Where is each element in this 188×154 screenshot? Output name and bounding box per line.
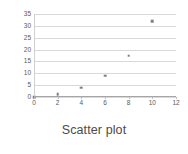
x-tick-label: 10 [149,100,156,107]
x-axis-tick-labels: 024681012 [34,97,176,111]
x-tick-label: 6 [103,100,107,107]
y-axis-tick-labels: 05101520253035 [0,14,31,97]
y-tick-label: 0 [27,94,31,101]
data-point [80,86,83,89]
x-tick-label: 2 [56,100,60,107]
gridline [34,14,176,15]
plot-region: 05101520253035 024681012 [0,0,188,118]
y-tick-label: 20 [24,46,31,53]
y-tick-label: 35 [24,11,31,18]
x-tick-label: 4 [80,100,84,107]
gridline [34,38,176,39]
y-tick-label: 10 [24,70,31,77]
gridline [34,50,176,51]
data-point [127,54,130,57]
chart-title: Scatter plot [0,124,188,138]
y-tick-label: 15 [24,58,31,65]
plot-area [34,14,176,97]
y-tick-label: 25 [24,34,31,41]
y-tick-label: 5 [27,82,31,89]
data-point [151,20,154,23]
y-tick-label: 30 [24,23,31,30]
scatter-plot-figure: 05101520253035 024681012 Scatter plot [0,0,188,154]
data-point [56,93,59,96]
data-point [104,74,107,77]
y-axis-line [34,14,35,97]
x-tick-label: 0 [32,100,36,107]
gridline [34,85,176,86]
gridline [34,61,176,62]
x-tick-label: 8 [127,100,131,107]
gridline [34,26,176,27]
x-tick-label: 12 [172,100,179,107]
